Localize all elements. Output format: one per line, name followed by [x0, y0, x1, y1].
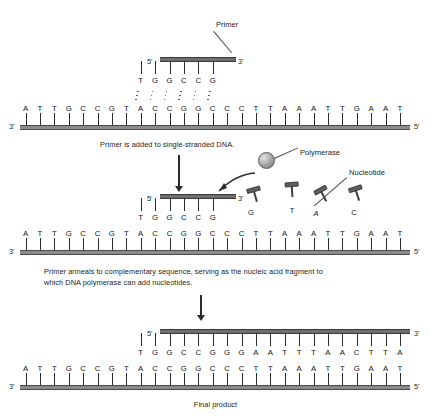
- strand-tick: [227, 333, 228, 346]
- template-base: A: [380, 364, 392, 373]
- strand-base: A: [394, 348, 406, 357]
- hydrogen-bond-dot: [165, 95, 166, 96]
- template-tick: [342, 238, 343, 250]
- strand-base: G: [207, 348, 219, 357]
- template-tick: [40, 113, 41, 125]
- template-tick: [256, 238, 257, 250]
- primer-5prime-label-2: 5': [147, 194, 153, 203]
- template-tick: [54, 238, 55, 250]
- template-tick: [69, 373, 70, 385]
- template-base: T: [322, 104, 334, 113]
- template-base: A: [135, 364, 147, 373]
- template-tick: [400, 113, 401, 125]
- template-tick: [141, 113, 142, 125]
- template-base: C: [164, 104, 176, 113]
- hydrogen-bond-dot: [164, 99, 165, 100]
- strand-base: G: [164, 76, 176, 85]
- panel-2: Polymerase Nucleotide G T A C: [0, 140, 431, 265]
- strand-base: G: [221, 348, 233, 357]
- template-base: T: [264, 229, 276, 238]
- hydrogen-bond-dot: [137, 91, 138, 92]
- template-tick: [270, 373, 271, 385]
- panel-3-caption: Final product: [0, 400, 431, 411]
- free-nucleotide-g-label: G: [244, 208, 258, 217]
- free-nucleotide-c: [348, 184, 366, 204]
- hydrogen-bond-dot: [166, 91, 167, 92]
- hydrogen-bond-dot: [150, 99, 151, 100]
- template-tick: [170, 113, 171, 125]
- new-strand-3prime-label: 3': [414, 329, 420, 338]
- template-base: C: [77, 229, 89, 238]
- strand-base: T: [380, 348, 392, 357]
- template-base: C: [77, 104, 89, 113]
- template-base: A: [20, 364, 32, 373]
- template-base: C: [221, 229, 233, 238]
- template-base: C: [236, 364, 248, 373]
- strand-tick: [198, 333, 199, 346]
- template-base: T: [264, 104, 276, 113]
- template-3prime-label: 3': [9, 122, 15, 131]
- strand-tick: [386, 333, 387, 346]
- template-tick: [213, 238, 214, 250]
- strand-base: G: [236, 348, 248, 357]
- template-tick: [227, 238, 228, 250]
- template-base: T: [322, 229, 334, 238]
- hydrogen-bond-dot: [194, 95, 195, 96]
- template-tick: [54, 373, 55, 385]
- template-base: T: [120, 364, 132, 373]
- hydrogen-bond-dot: [151, 95, 152, 96]
- template-tick: [155, 238, 156, 250]
- strand-tick: [256, 333, 257, 346]
- template-base: C: [207, 364, 219, 373]
- new-strand-5prime-label: 5': [147, 329, 153, 338]
- template-tick: [40, 373, 41, 385]
- template-base: A: [293, 229, 305, 238]
- template-base: G: [106, 229, 118, 238]
- template-base: C: [207, 229, 219, 238]
- hydrogen-bond-dot: [152, 91, 153, 92]
- primer-3prime-label: 3': [238, 57, 244, 66]
- strand-tick: [213, 198, 214, 211]
- template-tick: [285, 373, 286, 385]
- template-tick: [198, 113, 199, 125]
- template-tick: [270, 113, 271, 125]
- template-tick: [98, 373, 99, 385]
- primer-5prime-label: 5': [147, 57, 153, 66]
- template-tick: [112, 373, 113, 385]
- template-base: A: [365, 229, 377, 238]
- strand-base: C: [178, 213, 190, 222]
- template-base: G: [63, 104, 75, 113]
- template-base: A: [279, 104, 291, 113]
- strand-base: C: [192, 76, 204, 85]
- strand-base: C: [192, 348, 204, 357]
- strand-tick: [342, 333, 343, 346]
- strand-tick: [184, 198, 185, 211]
- strand-base: A: [322, 348, 334, 357]
- hydrogen-bond-dot: [207, 99, 208, 100]
- template-base: C: [164, 229, 176, 238]
- template-base: A: [308, 229, 320, 238]
- template-tick: [83, 373, 84, 385]
- template-base: C: [221, 364, 233, 373]
- template-base: A: [308, 364, 320, 373]
- template-base: G: [192, 364, 204, 373]
- strand-tick: [285, 333, 286, 346]
- template-tick: [112, 238, 113, 250]
- strand-tick: [155, 198, 156, 211]
- template-tick: [314, 113, 315, 125]
- template-base: T: [250, 104, 262, 113]
- template-tick: [386, 238, 387, 250]
- template-tick: [198, 373, 199, 385]
- figure-canvas: Primer 5' 3' TGGCCG ATTGCCGTACCGGCCCTTAA…: [0, 0, 431, 419]
- template-base: T: [336, 364, 348, 373]
- template-base: T: [394, 104, 406, 113]
- template-tick: [98, 113, 99, 125]
- template-tick: [141, 373, 142, 385]
- strand-base: C: [178, 76, 190, 85]
- hydrogen-bond-dot: [195, 91, 196, 92]
- strand-base: C: [178, 348, 190, 357]
- template-tick: [386, 373, 387, 385]
- free-nucleotide-t: [284, 182, 299, 199]
- panel-1: Primer 5' 3' TGGCCG ATTGCCGTACCGGCCCTTAA…: [0, 0, 431, 140]
- template-tick: [126, 113, 127, 125]
